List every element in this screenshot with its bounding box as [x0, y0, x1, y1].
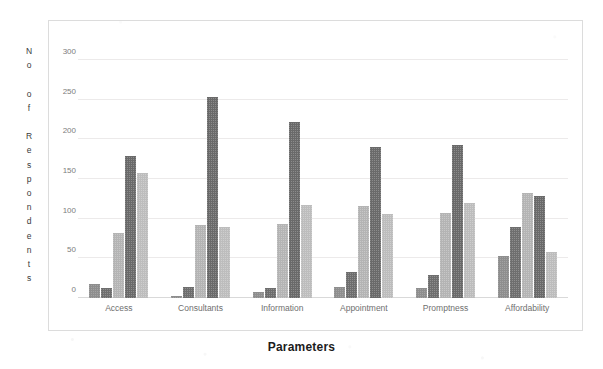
bar — [265, 288, 276, 298]
bar — [440, 213, 451, 298]
bar — [253, 292, 264, 298]
bar-group — [498, 60, 557, 298]
bar-group — [416, 60, 475, 298]
x-axis-tick-label: Promptness — [405, 303, 487, 319]
y-axis-title: N o o f R e s p o n d e n t s — [18, 44, 40, 285]
bar — [207, 97, 218, 298]
y-axis-tick-label: 250 — [63, 86, 76, 95]
bar — [534, 196, 545, 298]
bar — [382, 214, 393, 298]
x-axis-tick-label: Information — [241, 303, 323, 319]
bar — [301, 205, 312, 298]
bar — [358, 206, 369, 298]
y-axis-tick-label: 100 — [63, 205, 76, 214]
bar-groups — [78, 60, 568, 298]
y-axis-tick-label: 300 — [63, 47, 76, 56]
plot-area — [78, 60, 568, 298]
x-axis-tick-label: Appointment — [323, 303, 405, 319]
bar — [510, 227, 521, 298]
x-axis-title: Parameters — [0, 340, 603, 354]
bar — [452, 145, 463, 298]
y-axis-tick-label: 200 — [63, 126, 76, 135]
x-axis-tick-label: Consultants — [160, 303, 242, 319]
bar — [428, 275, 439, 298]
bar — [89, 284, 100, 298]
x-axis-tick-label: Access — [78, 303, 160, 319]
bar-group — [89, 60, 148, 298]
bar — [289, 122, 300, 298]
bar — [137, 173, 148, 298]
bar — [334, 287, 345, 298]
y-axis-tick-label: 50 — [67, 245, 76, 254]
chart-page: N o o f R e s p o n d e n t s 0501001502… — [0, 0, 603, 369]
bar — [370, 147, 381, 298]
bar — [113, 233, 124, 298]
bar — [171, 296, 182, 298]
y-axis-tick-label: 150 — [63, 166, 76, 175]
bar — [219, 227, 230, 298]
bar-group — [253, 60, 312, 298]
bar-group — [334, 60, 393, 298]
bar — [101, 288, 112, 298]
y-axis-tick-labels: 050100150200250300 — [50, 60, 76, 298]
bar — [546, 252, 557, 298]
y-axis-tick-label: 0 — [72, 285, 76, 294]
bar — [522, 193, 533, 298]
bar — [125, 156, 136, 298]
x-axis-tick-label: Affordability — [486, 303, 568, 319]
bar — [416, 288, 427, 298]
bar — [195, 225, 206, 298]
bar — [277, 224, 288, 298]
bar — [183, 287, 194, 298]
x-axis-tick-labels: AccessConsultantsInformationAppointmentP… — [78, 303, 568, 319]
bar — [346, 272, 357, 298]
bar — [498, 256, 509, 298]
bar-group — [171, 60, 230, 298]
bar — [464, 203, 475, 298]
